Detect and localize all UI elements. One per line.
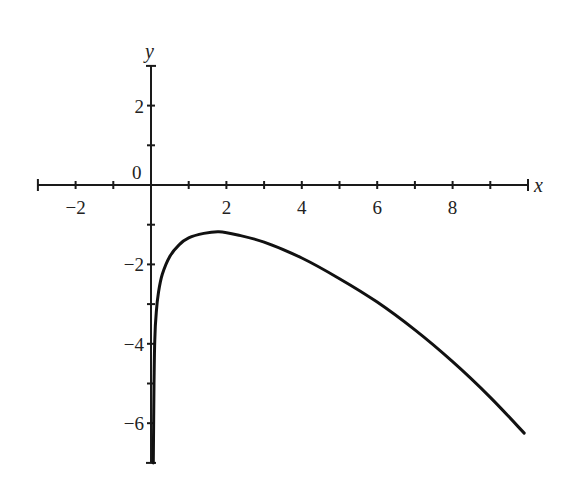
y-tick-label: −6 [124, 413, 144, 434]
series-curve [153, 232, 524, 463]
y-tick-label: −2 [124, 254, 144, 275]
chart: −224682−2−4−6 x y 0 [0, 0, 570, 490]
x-tick-label: 2 [222, 197, 232, 218]
y-tick-label: 2 [135, 96, 145, 117]
x-tick-label: 6 [372, 197, 382, 218]
ticks [38, 66, 528, 463]
tick-labels: −224682−2−4−6 [65, 96, 457, 435]
y-axis-label: y [143, 40, 154, 63]
y-tick-label: −4 [124, 334, 145, 355]
x-axis-label: x [533, 174, 543, 196]
origin-label: 0 [132, 162, 142, 183]
axes [38, 66, 528, 463]
x-tick-label: −2 [65, 197, 85, 218]
x-tick-label: 4 [297, 197, 307, 218]
x-tick-label: 8 [448, 197, 458, 218]
